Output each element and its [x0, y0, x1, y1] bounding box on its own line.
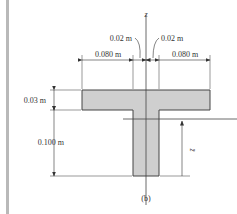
- z-axis-label: z: [143, 10, 148, 19]
- leader-right-002: [153, 38, 159, 58]
- dim-flange-left: 0.080 m: [95, 50, 122, 59]
- centroid-label: z̄: [188, 147, 197, 152]
- dim-web-left: 0.02 m: [110, 34, 133, 43]
- dim-flange-thickness: 0.03 m: [24, 96, 47, 105]
- figure-caption: (b): [141, 194, 151, 203]
- dim-flange-right: 0.080 m: [172, 50, 199, 59]
- leader-left-002: [135, 38, 140, 58]
- dim-web-right: 0.02 m: [161, 34, 184, 43]
- dim-web-height: 0.100 m: [38, 138, 65, 147]
- t-section-diagram: z 0.02 m 0.02 m 0.080 m 0.080 m 0.03 m 0…: [0, 0, 237, 214]
